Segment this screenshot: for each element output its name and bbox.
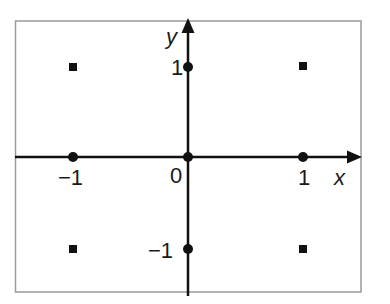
- point-circle: [298, 152, 308, 162]
- tick-label-x-pos1: 1: [298, 165, 310, 190]
- point-square: [299, 62, 307, 70]
- x-axis-arrow-icon: [347, 151, 362, 164]
- point-square: [69, 245, 77, 253]
- tick-label-y-neg1: −1: [148, 238, 173, 263]
- point-circle: [183, 244, 193, 254]
- point-circle: [183, 62, 193, 72]
- point-circle: [68, 152, 78, 162]
- point-square: [299, 245, 307, 253]
- point-circle: [183, 152, 193, 162]
- x-axis-label: x: [333, 165, 346, 190]
- tick-label-origin: 0: [170, 163, 182, 188]
- coordinate-plot: y x −1 0 1 1 −1: [0, 0, 390, 304]
- y-axis-label: y: [164, 24, 179, 49]
- tick-label-y-pos1: 1: [171, 55, 183, 80]
- point-square: [69, 63, 77, 71]
- tick-label-x-neg1: −1: [58, 165, 83, 190]
